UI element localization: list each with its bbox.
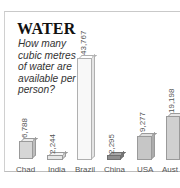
category-label-china: China (104, 165, 125, 174)
bar-china (107, 155, 121, 160)
bar-chad (19, 141, 33, 159)
bar-brazil (77, 58, 92, 160)
chart-subtitle: How many cubic metres of water are avail… (18, 38, 82, 96)
value-label-india: 2,244 (48, 134, 57, 154)
category-label-india: India (48, 165, 65, 174)
value-label-usa: 9,277 (138, 112, 147, 132)
chart-title: WATER (17, 21, 76, 37)
category-label-usa: USA (137, 165, 153, 174)
category-label-chad: Chad (16, 165, 35, 174)
bar-aust (166, 116, 180, 160)
category-label-brazil: Brazil (75, 165, 95, 174)
category-label-aust: Aust (162, 165, 178, 174)
value-label-chad: 6,788 (20, 118, 29, 138)
value-label-brazil: 43,767 (79, 31, 88, 55)
value-label-china: 2,295 (107, 134, 116, 154)
value-label-aust: 19,198 (167, 89, 176, 113)
bar-india (47, 155, 63, 160)
bar-usa (137, 136, 152, 160)
